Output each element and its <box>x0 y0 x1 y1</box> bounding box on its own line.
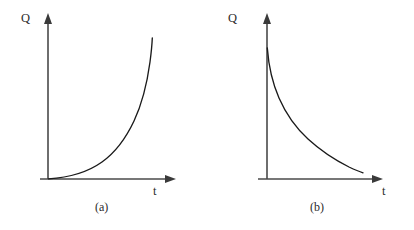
panel-a: Q t (a) <box>0 0 207 230</box>
panel-a-x-axis-label: t <box>153 185 156 198</box>
panel-a-plot <box>0 0 207 230</box>
panel-a-y-axis-arrow-icon <box>44 13 52 24</box>
panel-b: Q t (b) <box>207 0 414 230</box>
panel-b-caption: (b) <box>310 201 324 213</box>
panel-b-x-axis-arrow-icon <box>372 175 383 183</box>
panel-a-x-axis-arrow-icon <box>165 175 176 183</box>
panel-a-y-axis-label: Q <box>21 12 30 25</box>
panel-b-x-axis-label: t <box>382 185 385 198</box>
panel-a-caption: (a) <box>95 201 108 213</box>
panel-b-y-axis-arrow-icon <box>263 13 271 24</box>
panel-a-growth-curve <box>49 38 153 179</box>
figure-root: Q t (a) Q t (b) <box>0 0 414 230</box>
panel-b-y-axis-label: Q <box>228 12 237 25</box>
panel-b-decay-curve <box>267 48 363 173</box>
